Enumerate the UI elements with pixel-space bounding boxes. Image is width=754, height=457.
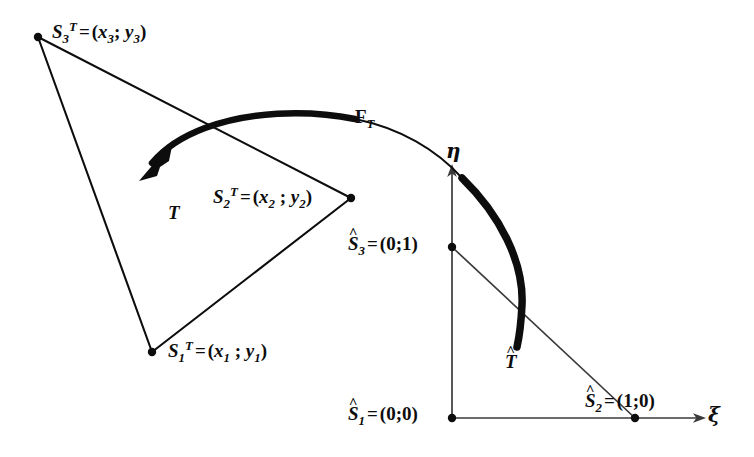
label-vertex-s2t: S2T=(x2 ; y2) [213, 187, 312, 206]
label-region-t: T [168, 203, 180, 222]
curved-edge-that [462, 178, 522, 347]
mapping-arrow-ft [139, 113, 462, 181]
vertex-dot-s1hat [448, 414, 456, 422]
label-mapping-ft-sub: T [367, 116, 375, 131]
label-mapping-ft: FT [355, 107, 375, 126]
triangle-edge-s3-s2 [38, 37, 351, 198]
triangle-edge-s1-s2 [152, 198, 351, 352]
diagram-svg [0, 0, 754, 457]
ft-curve-thick [152, 113, 355, 163]
label-axis-xi-text: ξ [708, 403, 720, 427]
label-vertex-s1hat: ^S1=(0;0) [348, 404, 418, 423]
label-axis-eta-text: η [446, 139, 461, 163]
label-axis-xi: ξ [708, 405, 720, 425]
label-vertex-s1t: S1T=(x1 ; y1) [168, 341, 267, 360]
label-axis-eta: η [446, 141, 461, 161]
triangle-edge-s3-s1 [38, 37, 152, 352]
vertex-dot-s3t [34, 33, 42, 41]
vertex-dot-s2hat [631, 414, 639, 422]
label-region-that: ^T [505, 352, 517, 371]
vertex-dot-s1t [148, 348, 156, 356]
label-region-t-text: T [168, 202, 180, 223]
label-vertex-s2hat: ^S2=(1;0) [585, 391, 655, 410]
vertex-dot-s3hat [448, 243, 456, 251]
vertex-dot-s2t [347, 194, 355, 202]
label-vertex-s3t: S3T=(x3; y3) [52, 22, 146, 41]
label-mapping-ft-main: F [355, 106, 367, 127]
label-vertex-s3hat: ^S3=(0;1) [348, 234, 418, 253]
figure-canvas: S3T=(x3; y3) S2T=(x2 ; y2) S1T=(x1 ; y1)… [0, 0, 754, 457]
